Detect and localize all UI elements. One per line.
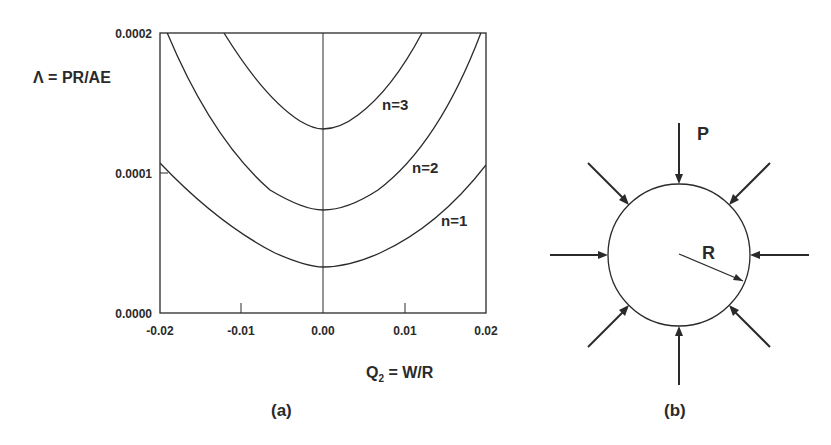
x-tick-label: 0.00 — [311, 324, 335, 338]
load-label: P — [697, 124, 709, 144]
pressure-arrow-left — [550, 251, 608, 259]
pressure-arrow-top-left — [588, 163, 629, 205]
curve-n2 — [166, 30, 482, 210]
x-axis-label-main: Q — [366, 364, 378, 381]
curve-label-n2: n=2 — [412, 159, 438, 176]
pressure-arrow-right — [750, 251, 809, 259]
figure: n=3 n=2 n=1 0.0002 0.0001 0.0000 -0.02 -… — [0, 0, 831, 445]
x-tick-label: 0.02 — [474, 324, 498, 338]
y-axis-label: Λ = PR/AE — [33, 69, 111, 86]
pressure-arrow-bottom-left — [588, 305, 629, 347]
x-tick-label: -0.01 — [227, 324, 255, 338]
y-tick-label: 0.0002 — [115, 27, 152, 41]
curve-label-n3: n=3 — [382, 96, 408, 113]
x-tick-label: -0.02 — [146, 324, 174, 338]
pressure-arrow-bottom — [675, 326, 683, 385]
panel-a-caption: (a) — [271, 401, 292, 420]
curve-label-n1: n=1 — [441, 212, 467, 229]
x-axis-label-rest: = W/R — [384, 364, 434, 381]
pressure-arrow-top-right — [729, 163, 770, 205]
y-tick-label: 0.0000 — [115, 307, 152, 321]
radius-label: R — [702, 243, 715, 263]
x-axis-label: Q2 = W/R — [366, 364, 434, 384]
panel-b-caption: (b) — [664, 401, 686, 420]
x-tick-label: 0.01 — [393, 324, 417, 338]
radius-arrowhead — [733, 274, 743, 281]
pressure-arrow-top — [675, 123, 683, 184]
pressure-arrow-bottom-right — [729, 305, 770, 347]
y-tick-label: 0.0001 — [115, 167, 152, 181]
ring — [608, 184, 750, 326]
